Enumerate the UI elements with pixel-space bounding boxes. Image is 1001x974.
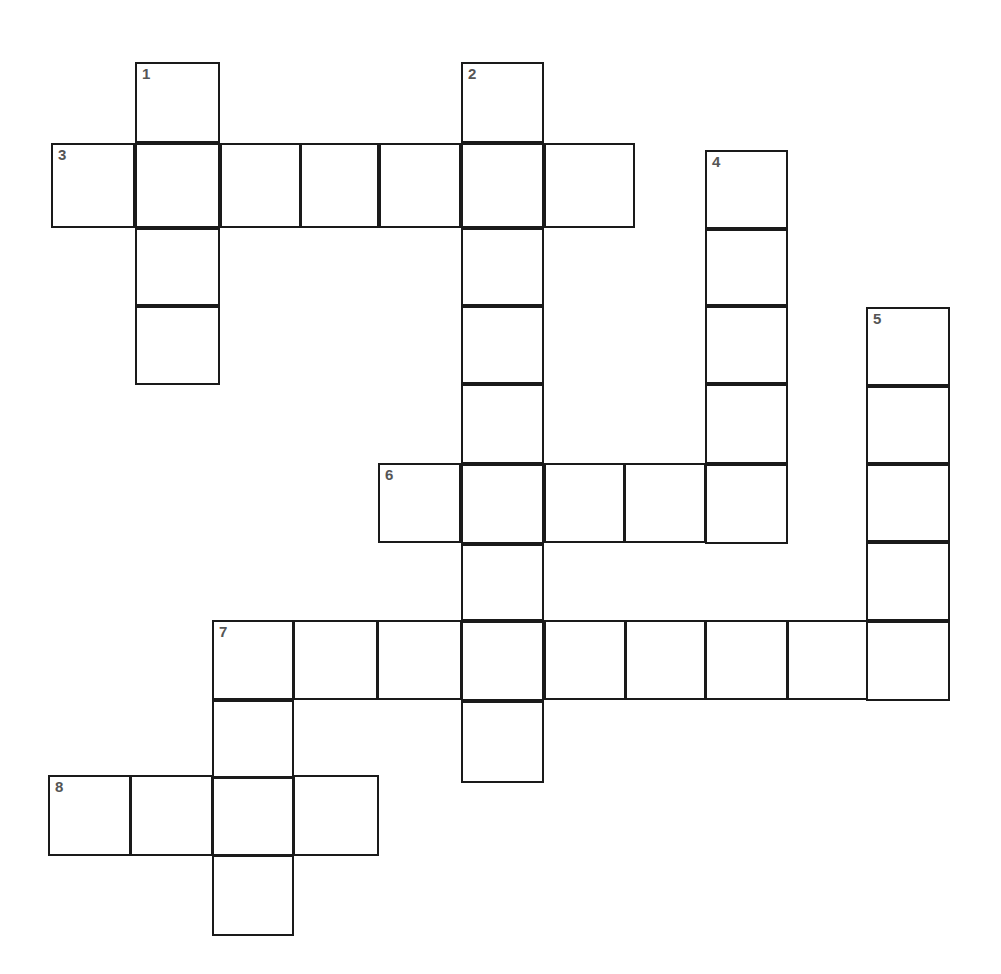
cell-number-4: 4 bbox=[712, 154, 720, 169]
cell-number-3: 3 bbox=[58, 147, 66, 162]
cell-number-6: 6 bbox=[385, 467, 393, 482]
crossword-cell[interactable] bbox=[461, 143, 544, 228]
crossword-cell[interactable] bbox=[705, 620, 788, 700]
crossword-cell[interactable] bbox=[461, 621, 544, 701]
crossword-cell[interactable] bbox=[625, 620, 706, 700]
crossword-cell[interactable] bbox=[705, 229, 788, 306]
crossword-cell[interactable] bbox=[135, 228, 220, 306]
crossword-cell[interactable]: 6 bbox=[378, 463, 461, 543]
crossword-cell[interactable] bbox=[293, 620, 378, 700]
crossword-cell[interactable] bbox=[461, 384, 544, 464]
cell-number-7: 7 bbox=[219, 624, 227, 639]
crossword-cell[interactable] bbox=[705, 306, 788, 384]
crossword-cell[interactable]: 7 bbox=[212, 620, 294, 700]
crossword-cell[interactable] bbox=[300, 143, 379, 228]
crossword-cell[interactable] bbox=[544, 143, 635, 228]
crossword-cell[interactable] bbox=[461, 228, 544, 306]
crossword-cell[interactable] bbox=[705, 464, 788, 544]
crossword-cell[interactable] bbox=[220, 143, 301, 228]
crossword-cell[interactable] bbox=[544, 620, 626, 700]
crossword-cell[interactable] bbox=[461, 544, 544, 621]
crossword-cell[interactable] bbox=[787, 620, 868, 700]
cell-number-5: 5 bbox=[873, 311, 881, 326]
crossword-puzzle-canvas: 12345678 bbox=[0, 0, 1001, 974]
crossword-cell[interactable] bbox=[866, 386, 950, 464]
crossword-cell[interactable]: 5 bbox=[866, 307, 950, 386]
crossword-cell[interactable] bbox=[135, 306, 220, 385]
crossword-cell[interactable]: 4 bbox=[705, 150, 788, 229]
crossword-cell[interactable] bbox=[377, 620, 462, 700]
crossword-cell[interactable] bbox=[212, 700, 294, 778]
crossword-cell[interactable] bbox=[544, 463, 625, 543]
crossword-cell[interactable] bbox=[461, 701, 544, 783]
crossword-cell[interactable]: 1 bbox=[135, 62, 220, 143]
crossword-cell[interactable] bbox=[624, 463, 706, 543]
cell-number-2: 2 bbox=[468, 66, 476, 81]
crossword-cell[interactable]: 2 bbox=[461, 62, 544, 143]
crossword-cell[interactable] bbox=[293, 775, 379, 856]
crossword-cell[interactable] bbox=[130, 775, 213, 856]
crossword-cell[interactable] bbox=[461, 464, 544, 544]
crossword-cell[interactable] bbox=[212, 777, 294, 856]
cell-number-1: 1 bbox=[142, 66, 150, 81]
crossword-cell[interactable] bbox=[212, 855, 294, 936]
crossword-cell[interactable] bbox=[705, 384, 788, 464]
crossword-cell[interactable] bbox=[866, 542, 950, 621]
crossword-cell[interactable]: 8 bbox=[48, 775, 131, 856]
crossword-cell[interactable]: 3 bbox=[51, 143, 135, 228]
crossword-cell[interactable] bbox=[866, 621, 950, 701]
crossword-cell[interactable] bbox=[866, 464, 950, 542]
crossword-cell[interactable] bbox=[461, 306, 544, 384]
crossword-grid: 12345678 bbox=[0, 0, 1001, 974]
cell-number-8: 8 bbox=[55, 779, 63, 794]
crossword-cell[interactable] bbox=[135, 143, 220, 228]
crossword-cell[interactable] bbox=[379, 143, 461, 228]
